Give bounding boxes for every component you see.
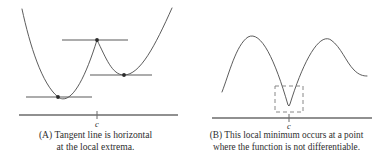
panel-b: c (B) This local minimum occurs at a poi… xyxy=(191,0,382,168)
panel-a-caption-line-1: (A) Tangent line is horizontal xyxy=(0,129,191,141)
panel-b-curve xyxy=(222,36,367,106)
figure-root: c (A) Tangent line is horizontal at the … xyxy=(0,0,382,168)
cusp-highlight-box xyxy=(275,86,303,112)
point-left-local-minimum xyxy=(56,95,60,99)
panel-a-graphic: c xyxy=(0,0,191,130)
point-local-maximum xyxy=(95,38,99,42)
panel-b-graphic: c xyxy=(191,0,382,130)
panel-b-caption-line-2: where the function is not differentiable… xyxy=(191,141,382,153)
panel-b-caption: (B) This local minimum occurs at a point… xyxy=(191,129,382,154)
panel-a-caption-line-2: at the local extrema. xyxy=(0,141,191,153)
point-right-local-minimum xyxy=(122,73,126,77)
panel-a-curve xyxy=(22,8,172,99)
panel-a-tick-label-c: c xyxy=(95,119,99,129)
panel-b-caption-line-1: (B) This local minimum occurs at a point xyxy=(191,129,382,141)
panel-a: c (A) Tangent line is horizontal at the … xyxy=(0,0,191,168)
panel-a-caption: (A) Tangent line is horizontal at the lo… xyxy=(0,129,191,154)
